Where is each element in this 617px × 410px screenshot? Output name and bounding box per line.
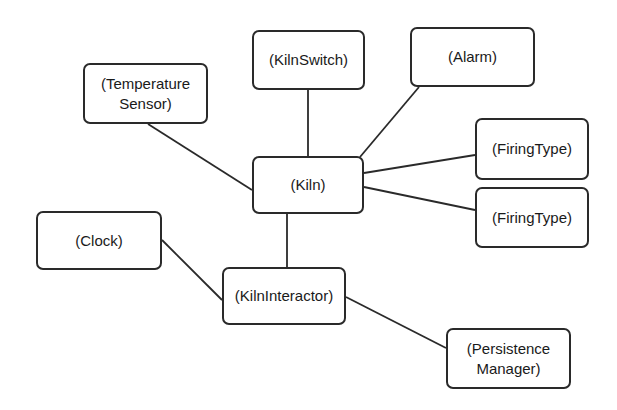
node-firingtype-2: (FiringType): [475, 187, 589, 248]
node-kilnswitch: (KilnSwitch): [252, 30, 365, 90]
edge-kiln-firingtype-1: [364, 155, 475, 173]
node-persistence-manager: (Persistence Manager): [446, 328, 571, 389]
edge-kiln-alarm: [360, 87, 419, 157]
edge-clock-kilninteractor: [162, 240, 222, 300]
node-alarm: (Alarm): [410, 27, 535, 87]
edge-kiln-temperature-sensor: [148, 124, 252, 190]
node-kiln: (Kiln): [252, 156, 364, 214]
edge-kilninteractor-persistence-manager: [346, 297, 446, 348]
node-firingtype-1: (FiringType): [475, 118, 589, 180]
edge-kiln-firingtype-2: [364, 187, 475, 210]
collaboration-diagram: (Kiln) (KilnSwitch) (Alarm) (Temperature…: [0, 0, 617, 410]
node-clock: (Clock): [36, 211, 162, 270]
node-kilninteractor: (KilnInteractor): [222, 267, 346, 325]
node-temperature-sensor: (Temperature Sensor): [83, 63, 208, 124]
